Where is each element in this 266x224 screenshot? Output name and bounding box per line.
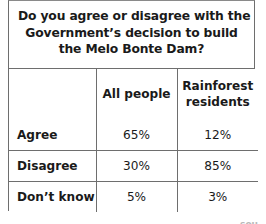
source-credit-text: sou — [240, 219, 258, 224]
question-title: Do you agree or disagree with the Govern… — [9, 1, 254, 69]
row-label-agree: Agree — [9, 120, 96, 151]
table-row: Don’t know 5% 3% — [9, 182, 258, 213]
source-credit: sou — [0, 213, 266, 224]
column-header-rainforest-residents-line-2: residents — [182, 95, 255, 111]
table-corner-cell — [9, 69, 96, 120]
cell-agree-all-people: 65% — [96, 120, 177, 151]
table-row: Disagree 30% 85% — [9, 151, 258, 182]
cell-agree-rainforest-residents: 12% — [177, 120, 258, 151]
table-header-row: All people Rainforest residents — [9, 69, 258, 120]
survey-results-table: All people Rainforest residents Agree 65… — [9, 69, 258, 212]
cell-dont-know-rainforest-residents: 3% — [177, 182, 258, 213]
survey-question-card: Do you agree or disagree with the Govern… — [8, 0, 255, 211]
question-line-3: the Melo Bonte Dam? — [18, 41, 245, 58]
cell-disagree-rainforest-residents: 85% — [177, 151, 258, 182]
column-header-all-people: All people — [96, 69, 177, 120]
cell-dont-know-all-people: 5% — [96, 182, 177, 213]
column-header-rainforest-residents-line-1: Rainforest — [182, 79, 255, 95]
cell-disagree-all-people: 30% — [96, 151, 177, 182]
column-header-rainforest-residents: Rainforest residents — [177, 69, 258, 120]
column-header-all-people-line-1: All people — [101, 87, 173, 103]
row-label-disagree: Disagree — [9, 151, 96, 182]
table-row: Agree 65% 12% — [9, 120, 258, 151]
row-label-dont-know: Don’t know — [9, 182, 96, 213]
question-line-2: Government’s decision to build — [18, 25, 245, 42]
question-line-1: Do you agree or disagree with the — [18, 8, 245, 25]
